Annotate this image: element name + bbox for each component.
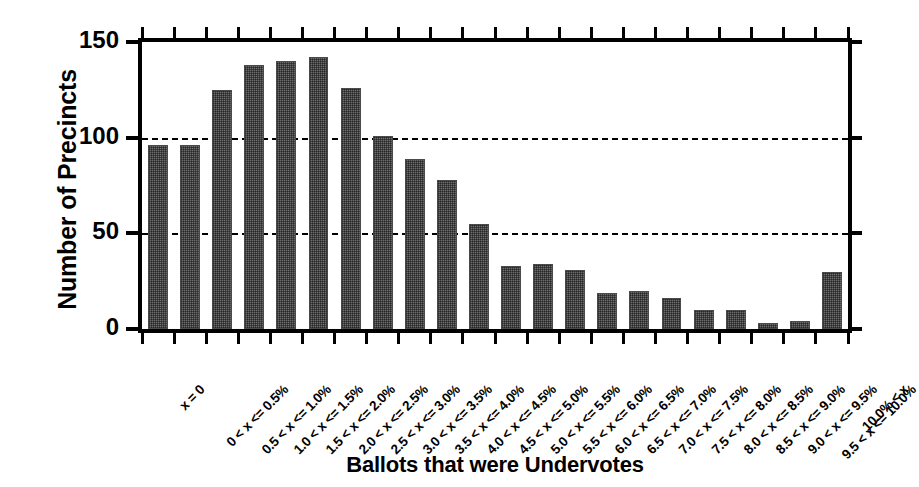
bar [565,270,585,329]
bar [437,180,457,329]
xtick-top-9 [429,27,432,40]
xtick-top-10 [461,27,464,40]
y-tick-0: 0 [126,327,139,331]
xtick-bottom-13 [558,331,561,344]
bar [533,264,553,329]
right-axis-line [848,38,852,333]
xtick-top-3 [237,27,240,40]
y-tick-50: 50 [126,231,139,235]
xtick-top-14 [590,27,593,40]
xtick-bottom-16 [654,331,657,344]
bar [790,321,810,329]
plot-area: 050100150 x = 00 < x <= 0.5%0.5 < x <= 1… [142,42,848,329]
xtick-bottom-17 [686,331,689,344]
xtick-top-13 [558,27,561,40]
xtick-top-12 [526,27,529,40]
xtick-bottom-20 [782,331,785,344]
xtick-top-15 [622,27,625,40]
xtick-bottom-7 [365,331,368,344]
bar [662,298,682,329]
y-tick-label-150: 150 [79,27,119,53]
xtick-top-16 [654,27,657,40]
y-tick-right-150 [849,40,862,44]
bar [276,61,296,329]
xtick-top-2 [205,27,208,40]
xtick-bottom-15 [622,331,625,344]
xtick-bottom-19 [750,331,753,344]
bar [694,310,714,329]
xtick-bottom-9 [429,331,432,344]
bar [629,291,649,329]
xtick-top-0 [141,27,144,40]
xtick-top-1 [173,27,176,40]
y-axis-line [138,38,142,333]
xtick-bottom-4 [269,331,272,344]
xtick-bottom-8 [397,331,400,344]
bar [341,88,361,329]
y-tick-100: 100 [126,136,139,140]
xtick-bottom-2 [205,331,208,344]
xtick-bottom-1 [173,331,176,344]
xtick-top-11 [494,27,497,40]
xtick-bottom-5 [301,331,304,344]
xtick-top-8 [397,27,400,40]
y-tick-label-100: 100 [79,123,119,149]
xtick-bottom-0 [141,331,144,344]
bar [726,310,746,329]
xtick-bottom-6 [333,331,336,344]
bar [212,90,232,329]
bar [148,145,168,329]
xtick-top-19 [750,27,753,40]
xtick-bottom-12 [526,331,529,344]
bar [469,224,489,329]
y-tick-right-100 [849,136,862,140]
xtick-top-18 [718,27,721,40]
bar [373,136,393,329]
xtick-bottom-3 [237,331,240,344]
bar [758,323,778,329]
y-tick-label-0: 0 [106,314,119,340]
y-tick-right-0 [849,327,862,331]
y-tick-label-50: 50 [92,218,119,244]
xtick-top-7 [365,27,368,40]
xtick-top-21 [814,27,817,40]
x-tick-label: x = 0 [176,382,207,413]
xtick-top-4 [269,27,272,40]
bar [597,293,617,329]
y-tick-150: 150 [126,40,139,44]
xtick-bottom-14 [590,331,593,344]
xtick-top-17 [686,27,689,40]
xtick-top-5 [301,27,304,40]
y-axis-title: Number of Precincts [53,30,82,350]
y-tick-right-50 [849,231,862,235]
bar [405,159,425,329]
xtick-bottom-22 [847,331,850,344]
xtick-top-6 [333,27,336,40]
xtick-top-22 [847,27,850,40]
xtick-top-20 [782,27,785,40]
bar [501,266,521,329]
xtick-bottom-18 [718,331,721,344]
xtick-bottom-11 [494,331,497,344]
xtick-bottom-10 [461,331,464,344]
bar [822,272,842,329]
bar [180,145,200,329]
xtick-bottom-21 [814,331,817,344]
x-axis-title: Ballots that were Undervotes [142,452,848,478]
bar [244,65,264,329]
bar [309,57,329,329]
